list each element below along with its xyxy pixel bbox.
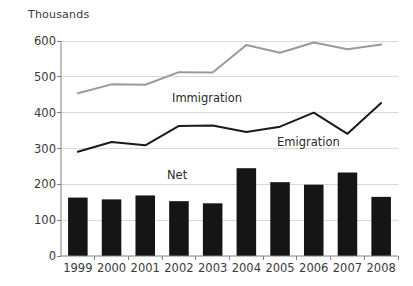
series-label-emigration: Emigration xyxy=(277,135,340,149)
x-tick-label: 2008 xyxy=(367,261,396,275)
migration-chart: Thousands 0100200300400500600 1999200020… xyxy=(0,0,413,286)
x-tick-label: 2001 xyxy=(131,261,160,275)
x-tick-label: 2006 xyxy=(299,261,328,275)
series-label-immigration: Immigration xyxy=(172,91,242,105)
x-axis-tick-labels: 1999200020012002200320042005200620072008 xyxy=(61,261,398,283)
x-tick-label: 1999 xyxy=(63,261,92,275)
x-tick-label: 2002 xyxy=(164,261,193,275)
axis-lines xyxy=(0,0,413,286)
x-tick-label: 2004 xyxy=(232,261,261,275)
x-tick-label: 2003 xyxy=(198,261,227,275)
series-label-net: Net xyxy=(167,168,187,182)
x-tick-label: 2005 xyxy=(265,261,294,275)
x-tick-label: 2000 xyxy=(97,261,126,275)
x-tick-marks xyxy=(95,256,398,260)
y-tick-marks xyxy=(57,41,61,256)
x-tick-label: 2007 xyxy=(333,261,362,275)
